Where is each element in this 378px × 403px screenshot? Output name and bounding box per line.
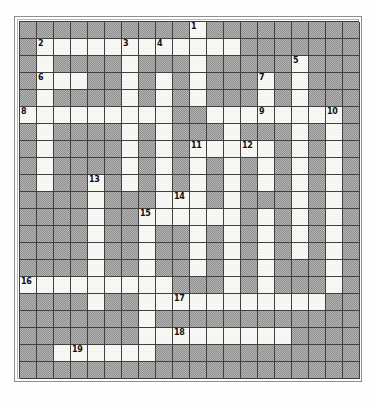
crossword-cell-open[interactable]	[88, 260, 105, 277]
crossword-cell-open[interactable]: 14	[173, 192, 190, 209]
crossword-cell-open[interactable]	[258, 294, 275, 311]
crossword-cell-open[interactable]	[156, 175, 173, 192]
crossword-cell-open[interactable]	[190, 192, 207, 209]
crossword-cell-open[interactable]	[326, 158, 343, 175]
crossword-cell-open[interactable]	[224, 124, 241, 141]
crossword-cell-open[interactable]: 5	[292, 56, 309, 73]
crossword-cell-open[interactable]	[139, 345, 156, 362]
crossword-cell-open[interactable]	[207, 107, 224, 124]
crossword-cell-open[interactable]	[122, 90, 139, 107]
crossword-cell-open[interactable]	[139, 260, 156, 277]
crossword-cell-open[interactable]	[122, 73, 139, 90]
crossword-cell-open[interactable]	[190, 226, 207, 243]
crossword-cell-open[interactable]	[224, 243, 241, 260]
crossword-cell-open[interactable]	[190, 260, 207, 277]
crossword-cell-open[interactable]	[54, 277, 71, 294]
crossword-cell-open[interactable]	[156, 209, 173, 226]
crossword-cell-open[interactable]	[156, 90, 173, 107]
crossword-cell-open[interactable]	[54, 39, 71, 56]
crossword-cell-open[interactable]	[139, 39, 156, 56]
crossword-cell-open[interactable]	[190, 73, 207, 90]
crossword-cell-open[interactable]: 12	[241, 141, 258, 158]
crossword-cell-open[interactable]	[37, 277, 54, 294]
crossword-cell-open[interactable]	[258, 158, 275, 175]
crossword-cell-open[interactable]	[207, 328, 224, 345]
crossword-cell-open[interactable]	[292, 107, 309, 124]
crossword-cell-open[interactable]	[292, 175, 309, 192]
crossword-cell-open[interactable]	[88, 226, 105, 243]
crossword-cell-open[interactable]	[224, 192, 241, 209]
crossword-cell-open[interactable]	[190, 328, 207, 345]
crossword-cell-open[interactable]	[88, 209, 105, 226]
crossword-cell-open[interactable]	[258, 175, 275, 192]
crossword-cell-open[interactable]	[224, 260, 241, 277]
crossword-cell-open[interactable]	[139, 277, 156, 294]
crossword-cell-open[interactable]	[71, 107, 88, 124]
crossword-cell-open[interactable]	[122, 158, 139, 175]
crossword-cell-open[interactable]	[37, 141, 54, 158]
crossword-cell-open[interactable]: 4	[156, 39, 173, 56]
crossword-cell-open[interactable]	[37, 107, 54, 124]
crossword-cell-open[interactable]: 3	[122, 39, 139, 56]
crossword-cell-open[interactable]	[326, 209, 343, 226]
crossword-cell-open[interactable]	[190, 243, 207, 260]
crossword-cell-open[interactable]	[190, 209, 207, 226]
crossword-cell-open[interactable]	[71, 39, 88, 56]
crossword-cell-open[interactable]	[292, 141, 309, 158]
crossword-cell-open[interactable]	[258, 328, 275, 345]
crossword-cell-open[interactable]	[224, 107, 241, 124]
crossword-cell-open[interactable]	[292, 73, 309, 90]
crossword-cell-open[interactable]	[309, 107, 326, 124]
crossword-cell-open[interactable]: 7	[258, 73, 275, 90]
crossword-cell-open[interactable]: 2	[37, 39, 54, 56]
crossword-cell-open[interactable]	[105, 107, 122, 124]
crossword-cell-open[interactable]	[37, 90, 54, 107]
crossword-cell-open[interactable]	[326, 260, 343, 277]
crossword-cell-open[interactable]: 6	[37, 73, 54, 90]
crossword-cell-open[interactable]	[241, 328, 258, 345]
crossword-cell-open[interactable]	[54, 73, 71, 90]
crossword-cell-open[interactable]	[173, 39, 190, 56]
crossword-cell-open[interactable]	[224, 158, 241, 175]
crossword-cell-open[interactable]	[54, 345, 71, 362]
crossword-cell-open[interactable]	[190, 39, 207, 56]
crossword-cell-open[interactable]	[258, 260, 275, 277]
crossword-cell-open[interactable]	[326, 124, 343, 141]
crossword-cell-open[interactable]	[207, 141, 224, 158]
crossword-cell-open[interactable]	[71, 73, 88, 90]
crossword-cell-open[interactable]	[88, 243, 105, 260]
crossword-cell-open[interactable]	[139, 311, 156, 328]
crossword-cell-open[interactable]	[241, 107, 258, 124]
crossword-cell-open[interactable]	[258, 243, 275, 260]
crossword-cell-open[interactable]	[326, 226, 343, 243]
crossword-cell-open[interactable]	[139, 226, 156, 243]
crossword-cell-open[interactable]	[258, 277, 275, 294]
crossword-cell-open[interactable]	[105, 39, 122, 56]
crossword-cell-open[interactable]: 11	[190, 141, 207, 158]
crossword-cell-open[interactable]	[88, 277, 105, 294]
crossword-cell-open[interactable]	[224, 209, 241, 226]
crossword-cell-open[interactable]	[173, 209, 190, 226]
crossword-cell-open[interactable]	[156, 158, 173, 175]
crossword-cell-open[interactable]	[292, 124, 309, 141]
crossword-cell-open[interactable]	[292, 90, 309, 107]
crossword-cell-open[interactable]: 13	[88, 175, 105, 192]
crossword-cell-open[interactable]: 8	[20, 107, 37, 124]
crossword-cell-open[interactable]	[156, 277, 173, 294]
crossword-cell-open[interactable]: 10	[326, 107, 343, 124]
crossword-cell-open[interactable]	[139, 328, 156, 345]
crossword-cell-open[interactable]	[292, 209, 309, 226]
crossword-cell-open[interactable]	[37, 175, 54, 192]
crossword-cell-open[interactable]	[122, 141, 139, 158]
crossword-cell-open[interactable]	[292, 243, 309, 260]
crossword-cell-open[interactable]	[139, 107, 156, 124]
crossword-cell-open[interactable]	[258, 209, 275, 226]
crossword-cell-open[interactable]	[156, 328, 173, 345]
crossword-cell-open[interactable]	[275, 107, 292, 124]
crossword-cell-open[interactable]	[207, 209, 224, 226]
crossword-cell-open[interactable]	[122, 107, 139, 124]
crossword-cell-open[interactable]	[156, 141, 173, 158]
crossword-cell-open[interactable]	[224, 141, 241, 158]
crossword-cell-open[interactable]: 1	[190, 22, 207, 39]
crossword-cell-open[interactable]	[326, 141, 343, 158]
